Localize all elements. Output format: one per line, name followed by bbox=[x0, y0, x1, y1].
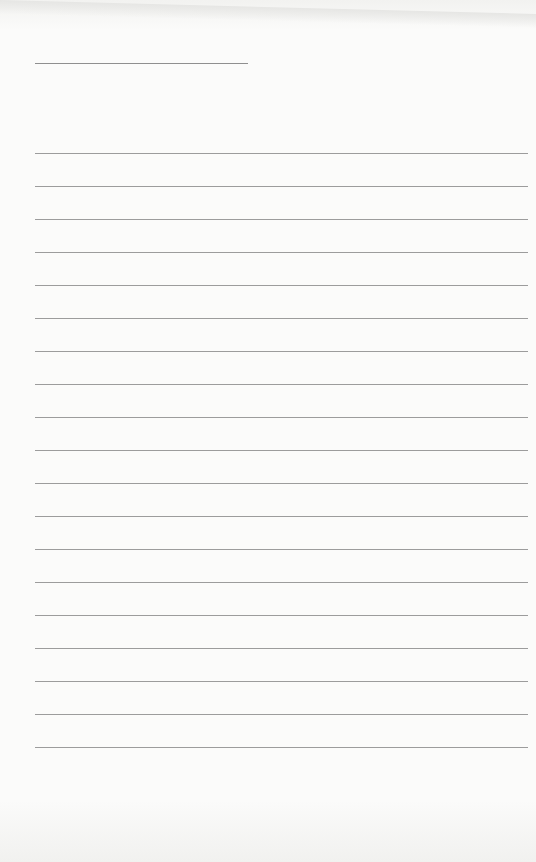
ruled-line bbox=[35, 450, 528, 451]
ruled-line bbox=[35, 549, 528, 550]
ruled-line bbox=[35, 516, 528, 517]
ruled-line bbox=[35, 384, 528, 385]
ruled-line bbox=[35, 417, 528, 418]
lined-paper-sheet bbox=[0, 0, 536, 862]
ruled-line bbox=[35, 219, 528, 220]
ruled-line bbox=[35, 615, 528, 616]
title-line bbox=[35, 63, 248, 64]
ruled-line bbox=[35, 153, 528, 154]
ruled-line bbox=[35, 648, 528, 649]
ruled-line bbox=[35, 483, 528, 484]
ruled-line bbox=[35, 318, 528, 319]
ruled-line bbox=[35, 285, 528, 286]
paper-top-edge-shadow bbox=[0, 0, 536, 28]
ruled-line bbox=[35, 714, 528, 715]
ruled-line bbox=[35, 747, 528, 748]
ruled-line bbox=[35, 186, 528, 187]
ruled-line bbox=[35, 582, 528, 583]
ruled-line bbox=[35, 351, 528, 352]
ruled-line bbox=[35, 681, 528, 682]
ruled-line bbox=[35, 252, 528, 253]
